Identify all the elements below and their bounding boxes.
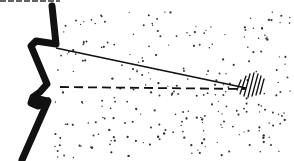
- solid-ray: [56, 48, 246, 88]
- stippled-diagram: [0, 0, 294, 161]
- dashed-ray: [60, 87, 246, 89]
- hatched-spot: [237, 73, 264, 97]
- jagged-boundary: [22, 6, 56, 160]
